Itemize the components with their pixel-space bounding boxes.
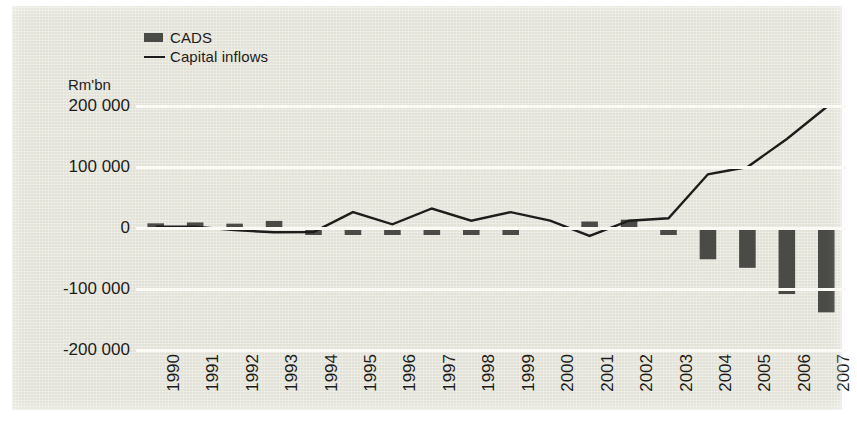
- x-axis-tick-label: 1998: [479, 354, 499, 416]
- bar: [739, 230, 756, 268]
- y-axis-tick-label: 200 000: [18, 96, 130, 116]
- bar: [463, 230, 480, 235]
- x-axis-tick-label: 1993: [282, 354, 302, 416]
- gridline: [136, 349, 846, 352]
- x-axis-tick-label: 1992: [243, 354, 263, 416]
- legend-label-capital-inflows: Capital inflows: [170, 47, 268, 66]
- x-axis-tick-label: 1990: [164, 354, 184, 416]
- bar: [700, 230, 717, 259]
- x-axis-tick-labels: 1990199119921993199419951996199719981999…: [136, 354, 846, 416]
- gridline: [136, 105, 846, 108]
- x-axis-tick-label: 2001: [598, 354, 618, 416]
- x-axis-tick-label: 1995: [361, 354, 381, 416]
- legend-label-cads: CADS: [170, 28, 212, 47]
- bar: [660, 230, 677, 235]
- x-axis-tick-label: 2006: [795, 354, 815, 416]
- y-axis-tick-label: -200 000: [18, 340, 130, 360]
- bar: [818, 230, 835, 312]
- chart-figure: CADS Capital inflows Rm'bn 200 000100 00…: [0, 0, 857, 425]
- bar: [384, 230, 401, 235]
- chart-legend: CADS Capital inflows: [144, 28, 404, 66]
- legend-item-capital-inflows: Capital inflows: [144, 47, 404, 66]
- bar: [502, 230, 519, 235]
- x-axis-tick-label: 1996: [400, 354, 420, 416]
- line-series-capital-inflows: [156, 107, 827, 236]
- x-axis-tick-label: 2007: [834, 354, 854, 416]
- x-axis-tick-label: 2002: [637, 354, 657, 416]
- bar: [424, 230, 441, 235]
- legend-item-cads: CADS: [144, 28, 404, 47]
- gridline: [136, 288, 846, 291]
- x-axis-tick-label: 2000: [558, 354, 578, 416]
- bar-swatch-icon: [144, 28, 170, 47]
- x-axis-tick-label: 1997: [440, 354, 460, 416]
- x-axis-tick-label: 1999: [519, 354, 539, 416]
- y-axis-tick-label: 0: [18, 218, 130, 238]
- gridline: [136, 166, 846, 169]
- x-axis-tick-label: 2004: [716, 354, 736, 416]
- y-axis-unit-label: Rm'bn: [68, 76, 111, 93]
- bar: [779, 230, 796, 294]
- bar: [345, 230, 362, 235]
- y-axis-tick-labels: 200 000100 0000-100 000-200 000: [12, 106, 130, 350]
- bar-series-cads: [147, 220, 834, 313]
- y-axis-tick-label: -100 000: [18, 279, 130, 299]
- y-axis-tick-label: 100 000: [18, 157, 130, 177]
- x-axis-tick-label: 1994: [322, 354, 342, 416]
- x-axis-tick-label: 1991: [203, 354, 223, 416]
- x-axis-tick-label: 2005: [755, 354, 775, 416]
- line-swatch-icon: [144, 47, 170, 66]
- x-axis-tick-label: 2003: [677, 354, 697, 416]
- gridline: [136, 227, 846, 230]
- chart-panel: CADS Capital inflows Rm'bn 200 000100 00…: [12, 6, 842, 410]
- plot-area: [136, 106, 846, 350]
